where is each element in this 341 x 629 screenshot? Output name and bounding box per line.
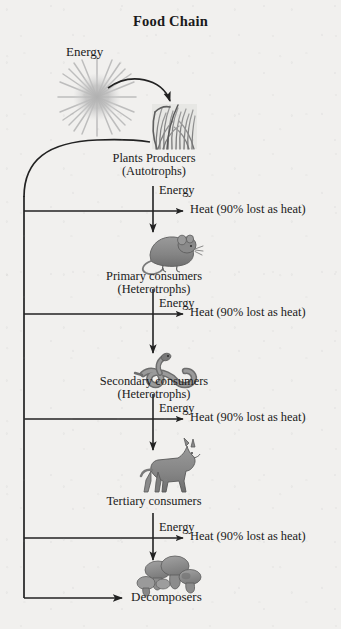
decomposers-label: Decomposers: [131, 590, 202, 604]
energy-source-label: Energy: [66, 45, 103, 59]
trophic-name-producers: Plants Producers: [113, 151, 196, 165]
heat-label-tertiary-consumers: Heat (90% lost as heat): [190, 530, 306, 543]
trophic-sub-producers: (Autotrophs): [92, 165, 216, 178]
trophic-label-secondary-consumers: Secondary consumers (Heterotrophs): [78, 375, 230, 401]
trophic-name-secondary-consumers: Secondary consumers: [100, 374, 208, 388]
energy-flow-label-producers: Energy: [159, 184, 195, 197]
trophic-label-primary-consumers: Primary consumers (Heterotrophs): [86, 270, 222, 296]
food-chain-diagram: Food Chain: [0, 0, 341, 629]
heat-label-secondary-consumers: Heat (90% lost as heat): [190, 411, 306, 424]
trophic-sub-primary-consumers: (Heterotrophs): [86, 283, 222, 296]
trophic-label-producers: Plants Producers (Autotrophs): [92, 152, 216, 178]
trophic-name-tertiary-consumers: Tertiary consumers: [106, 494, 201, 508]
wolf-icon: [141, 438, 200, 492]
trophic-label-tertiary-consumers: Tertiary consumers: [86, 495, 222, 508]
heat-label-producers: Heat (90% lost as heat): [190, 203, 306, 216]
page-title: Food Chain: [0, 14, 341, 29]
trophic-name-primary-consumers: Primary consumers: [106, 269, 202, 283]
sun-icon: [58, 58, 136, 136]
nutrient-recycling-loop: [24, 140, 153, 598]
trophic-sub-secondary-consumers: (Heterotrophs): [78, 388, 230, 401]
grass-plants-icon: [152, 104, 197, 149]
heat-label-primary-consumers: Heat (90% lost as heat): [190, 306, 306, 319]
